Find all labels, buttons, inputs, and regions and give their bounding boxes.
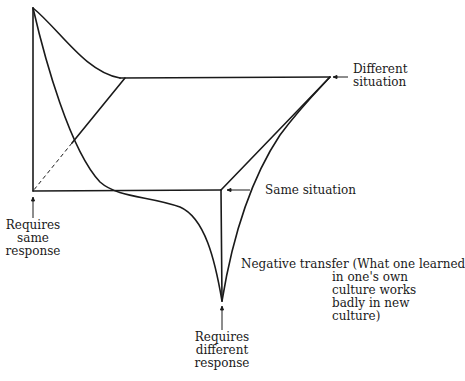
cusp-vertical: [221, 190, 222, 301]
arrowhead-icon: [227, 189, 231, 192]
label-requires-same-response: Requires same response: [3, 219, 63, 258]
arrowhead-icon: [333, 76, 337, 79]
hidden-edge-dashed: [33, 143, 72, 191]
arrowhead-icon: [32, 197, 35, 201]
arrowhead-icon: [221, 306, 224, 310]
back-edge: [120, 77, 330, 78]
left-edge: [72, 78, 125, 143]
front-edge: [33, 190, 221, 191]
label-different-situation: Different situation: [353, 63, 407, 89]
negative-transfer-explanation: in one's own culture works badly in new …: [332, 271, 416, 323]
label-same-situation: Same situation: [265, 184, 356, 197]
label-requires-different-response: Requires different response: [190, 331, 254, 370]
negative-transfer-title: Negative transfer: [241, 257, 349, 271]
upper-curve: [33, 8, 120, 78]
